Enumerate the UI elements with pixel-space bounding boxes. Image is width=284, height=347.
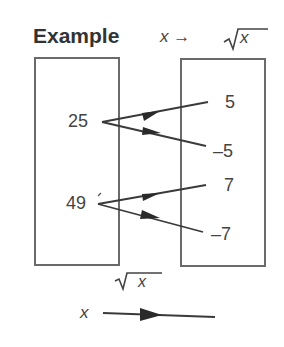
legend-input-label: x xyxy=(80,303,89,323)
legend-function-label: x xyxy=(138,273,146,291)
range-value-5: 5 xyxy=(225,92,235,113)
range-value-neg7: –7 xyxy=(211,224,231,245)
mapping-arrow-icon: → xyxy=(173,27,190,46)
domain-value-49: 49 xyxy=(66,193,86,214)
domain-box xyxy=(35,58,119,265)
arrow-49-to-7 xyxy=(98,185,206,204)
legend-arrow xyxy=(103,308,215,321)
mapping-output: x xyxy=(240,28,249,48)
range-value-neg5: –5 xyxy=(213,141,233,162)
mapping-label: x → xyxy=(160,27,190,47)
domain-value-25: 25 xyxy=(68,111,88,132)
mapping-input: x xyxy=(160,27,169,46)
arrow-49-to-neg7 xyxy=(98,204,203,232)
arrow-25-to-neg5 xyxy=(102,122,206,146)
arrow-25-to-5 xyxy=(102,102,208,122)
page-title: Example xyxy=(33,24,119,48)
range-value-7: 7 xyxy=(224,175,234,196)
mapping-diagram-graphics xyxy=(0,0,284,347)
stray-mark xyxy=(98,193,101,196)
